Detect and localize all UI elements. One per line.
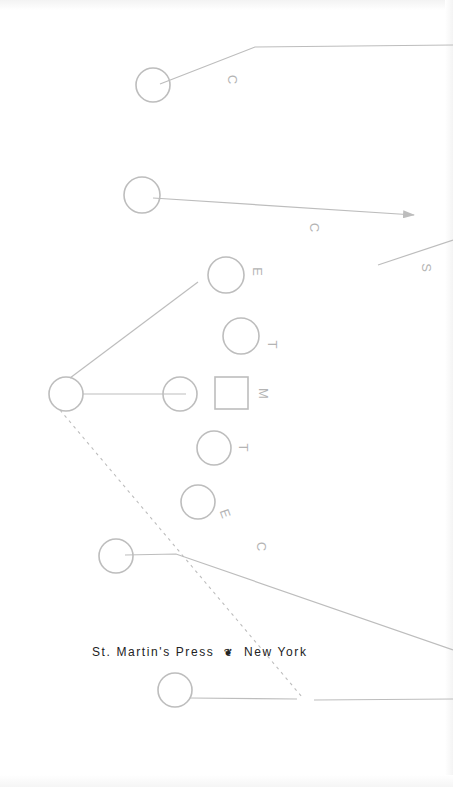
label-c3: C — [254, 542, 269, 551]
route-line-lower — [125, 554, 453, 650]
player-circle — [208, 257, 244, 293]
publisher-imprint: St. Martin's Press❦New York — [92, 645, 308, 659]
label-c2: C — [307, 223, 322, 232]
route-line-diagonal — [70, 282, 198, 378]
route-line-1 — [160, 45, 453, 84]
player-circle — [223, 318, 259, 354]
player-circle — [49, 377, 83, 411]
player-circle — [181, 485, 215, 519]
player-circle — [136, 68, 170, 102]
publisher-logo-icon: ❦ — [224, 647, 234, 658]
route-line-bottom-b — [314, 699, 453, 700]
route-arrow-line — [153, 198, 414, 215]
player-circle — [197, 431, 231, 465]
route-line-s — [378, 240, 453, 265]
publisher-city: New York — [244, 645, 308, 659]
label-t2: T — [236, 444, 251, 452]
label-m1: M — [256, 388, 271, 399]
player-square — [215, 377, 248, 409]
label-t1: T — [265, 341, 280, 349]
label-s1: S — [419, 263, 434, 272]
publisher-name: St. Martin's Press — [92, 645, 214, 659]
football-play-diagram — [0, 0, 453, 787]
player-circle — [99, 539, 133, 573]
player-circle — [158, 673, 192, 707]
route-line-bottom-a — [190, 698, 297, 699]
player-circle — [124, 177, 160, 213]
label-e1: E — [250, 267, 265, 276]
label-c1: C — [225, 75, 240, 84]
